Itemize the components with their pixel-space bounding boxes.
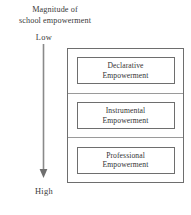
level-band: Declarative Empowerment [68, 49, 183, 93]
level-label-line-1: Professional [106, 151, 145, 160]
level-box-professional: Professional Empowerment [77, 147, 175, 174]
level-band: Professional Empowerment [68, 137, 183, 182]
level-band: Instrumental Empowerment [68, 93, 183, 138]
empowerment-levels-container: Declarative Empowerment Instrumental Emp… [67, 48, 184, 183]
axis-low-label: Low [21, 33, 67, 43]
axis-caption-line-2: school empowerment [0, 16, 115, 27]
axis-caption: Magnitude of school empowerment [0, 5, 115, 26]
level-box-instrumental: Instrumental Empowerment [77, 102, 175, 129]
level-label-line-2: Empowerment [103, 71, 149, 80]
axis-high-label: High [21, 187, 67, 197]
diagram-canvas: Magnitude of school empowerment Low High… [0, 0, 191, 215]
axis-caption-line-1: Magnitude of [0, 5, 115, 16]
magnitude-arrow-icon [34, 44, 54, 182]
level-label-line-1: Declarative [107, 61, 143, 70]
level-label-line-1: Instrumental [106, 106, 146, 115]
level-box-declarative: Declarative Empowerment [77, 57, 175, 84]
level-label-line-2: Empowerment [103, 116, 149, 125]
level-label-line-2: Empowerment [103, 160, 149, 169]
